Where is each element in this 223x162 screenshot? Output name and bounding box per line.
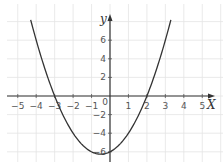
x-tick-label: 1	[126, 101, 132, 111]
x-tick-label: −4	[30, 101, 44, 111]
y-tick-label: 2	[100, 72, 106, 82]
x-axis-label: X	[206, 98, 216, 112]
y-tick-label: −6	[93, 147, 107, 157]
y-tick-label: −2	[93, 110, 106, 120]
grid	[7, 4, 223, 162]
x-tick-label: −2	[66, 101, 79, 111]
y-axis-arrow-icon	[108, 14, 113, 21]
x-tick-label: 4	[181, 101, 187, 111]
parabola-chart: −5−4−3−2−1012345−6−4−2246 X y	[0, 0, 223, 162]
x-tick-label: 5	[199, 101, 205, 111]
y-tick-label: 6	[100, 35, 106, 45]
x-tick-label: −5	[11, 101, 24, 111]
y-tick-label: 4	[100, 54, 106, 64]
y-tick-label: −4	[93, 128, 107, 138]
x-tick-label: 3	[162, 101, 168, 111]
x-tick-label: 0	[102, 97, 108, 107]
y-axis-label: y	[99, 12, 107, 26]
